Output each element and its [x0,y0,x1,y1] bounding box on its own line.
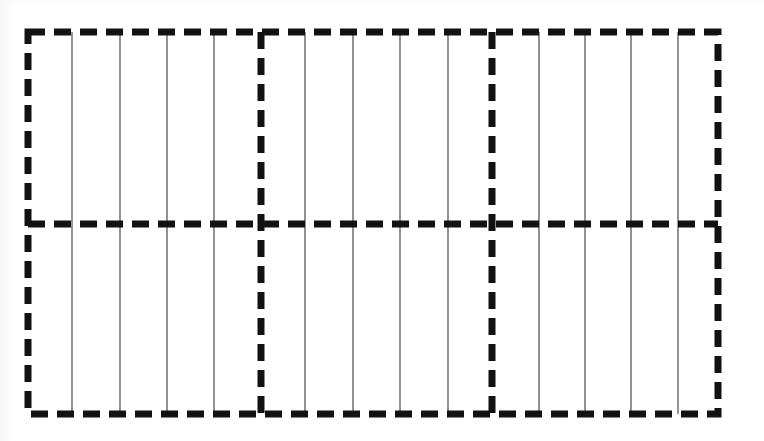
dashed-dividers-group [28,32,718,414]
diagram-canvas: Dashed rectangular grid diagram A rectan… [0,0,764,441]
grid-diagram-figure: Dashed rectangular grid diagram A rectan… [0,0,764,441]
